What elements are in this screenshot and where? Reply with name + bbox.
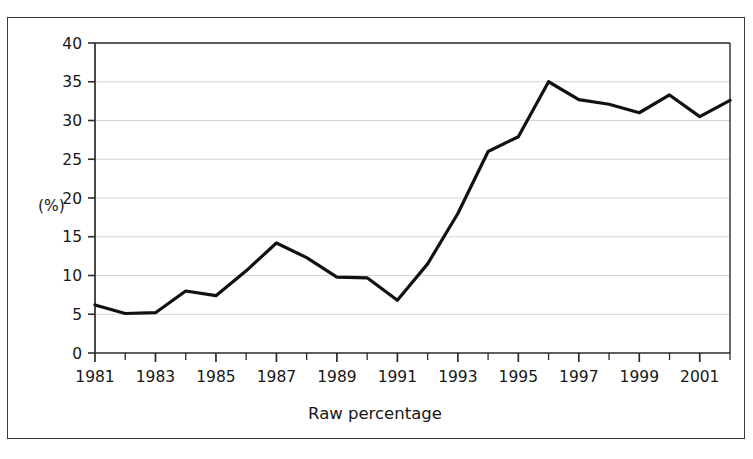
x-tick-label: 2001 [680, 368, 719, 386]
y-axis-tick-labels: 0510152025303540 [62, 35, 82, 363]
y-axis-unit-label: (%) [38, 197, 65, 215]
x-tick-label: 1995 [499, 368, 538, 386]
y-tick-label: 25 [62, 151, 82, 169]
x-axis-ticks [95, 353, 730, 362]
x-tick-label: 1993 [438, 368, 477, 386]
x-tick-label: 1983 [136, 368, 175, 386]
y-tick-label: 20 [62, 190, 82, 208]
gridlines [95, 43, 730, 314]
x-tick-label: 1989 [317, 368, 356, 386]
y-tick-label: 10 [62, 267, 82, 285]
x-tick-label: 1997 [559, 368, 598, 386]
y-tick-label: 40 [62, 35, 82, 53]
x-axis-tick-labels: 1981198319851987198919911993199519971999… [75, 368, 719, 386]
figure-root: 0510152025303540 19811983198519871989199… [0, 0, 753, 459]
y-tick-label: 5 [72, 306, 82, 324]
x-axis-title: Raw percentage [308, 404, 442, 423]
x-tick-label: 1987 [257, 368, 296, 386]
x-tick-label: 1999 [620, 368, 659, 386]
x-tick-label: 1991 [378, 368, 417, 386]
x-tick-label: 1985 [196, 368, 235, 386]
y-axis-ticks [88, 43, 95, 353]
y-tick-label: 35 [62, 73, 82, 91]
y-tick-label: 0 [72, 345, 82, 363]
y-tick-label: 15 [62, 228, 82, 246]
line-chart: 0510152025303540 19811983198519871989199… [0, 0, 753, 459]
y-tick-label: 30 [62, 112, 82, 130]
x-tick-label: 1981 [75, 368, 114, 386]
